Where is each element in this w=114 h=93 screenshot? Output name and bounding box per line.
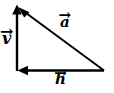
vector-accent-arrow-a: →	[59, 8, 72, 23]
vector-label-h: → h	[55, 72, 66, 87]
vector-diagram: → v → a → h	[0, 0, 114, 93]
vector-label-v: → v	[2, 31, 11, 47]
vector-accent-arrow-v: →	[0, 24, 13, 40]
vertical-vector-v	[12, 5, 22, 72]
vector-label-a: → a	[60, 15, 70, 30]
vector-accent-arrow-h: →	[54, 66, 67, 81]
horizontal-arrowhead-icon	[18, 66, 29, 75]
